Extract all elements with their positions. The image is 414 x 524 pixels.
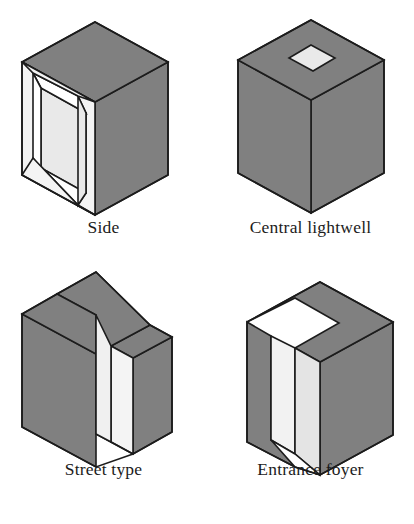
panel-label-street-type: Street type <box>0 458 207 480</box>
panel-label-side: Side <box>0 216 207 238</box>
figure-container: Side Central lightwell <box>0 0 414 524</box>
panel-label-entrance-foyer: Entrance foyer <box>207 458 414 480</box>
panel-side: Side <box>0 0 207 262</box>
panel-label-central-lightwell: Central lightwell <box>207 216 414 238</box>
isometric-cube-central-lightwell-icon <box>207 0 414 218</box>
panel-entrance-foyer: Entrance foyer <box>207 262 414 524</box>
panel-street-type: Street type <box>0 262 207 524</box>
isometric-cube-street-slot-icon <box>0 262 207 480</box>
isometric-cube-side-void-icon <box>0 0 207 218</box>
panel-central-lightwell: Central lightwell <box>207 0 414 262</box>
isometric-cube-entrance-notch-icon <box>207 262 414 480</box>
